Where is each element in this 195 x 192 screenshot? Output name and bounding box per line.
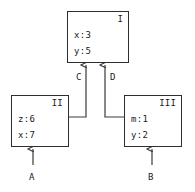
node-box-i[interactable]: I x:3 y:5 bbox=[67, 11, 129, 63]
node-fields-i: x:3 y:5 bbox=[74, 27, 125, 59]
node-field: z:6 bbox=[18, 111, 65, 127]
node-field: m:1 bbox=[131, 111, 178, 127]
node-box-iii[interactable]: III m:1 y:2 bbox=[124, 95, 182, 147]
edge-label-d: D bbox=[110, 72, 116, 82]
node-title-ii: II bbox=[52, 98, 63, 109]
node-title-iii: III bbox=[159, 98, 176, 109]
node-box-ii[interactable]: II z:6 x:7 bbox=[11, 95, 69, 147]
diagram-canvas: I x:3 y:5 II z:6 x:7 III m:1 y:2 C D A B bbox=[0, 0, 195, 192]
node-field: x:7 bbox=[18, 127, 65, 143]
node-field: x:3 bbox=[74, 27, 125, 43]
edge-label-b: B bbox=[148, 172, 154, 182]
edge-label-a: A bbox=[29, 172, 35, 182]
node-fields-ii: z:6 x:7 bbox=[18, 111, 65, 143]
node-field: y:2 bbox=[131, 127, 178, 143]
edge-label-c: C bbox=[76, 72, 82, 82]
node-fields-iii: m:1 y:2 bbox=[131, 111, 178, 143]
node-title-i: I bbox=[117, 14, 123, 25]
node-field: y:5 bbox=[74, 43, 125, 59]
